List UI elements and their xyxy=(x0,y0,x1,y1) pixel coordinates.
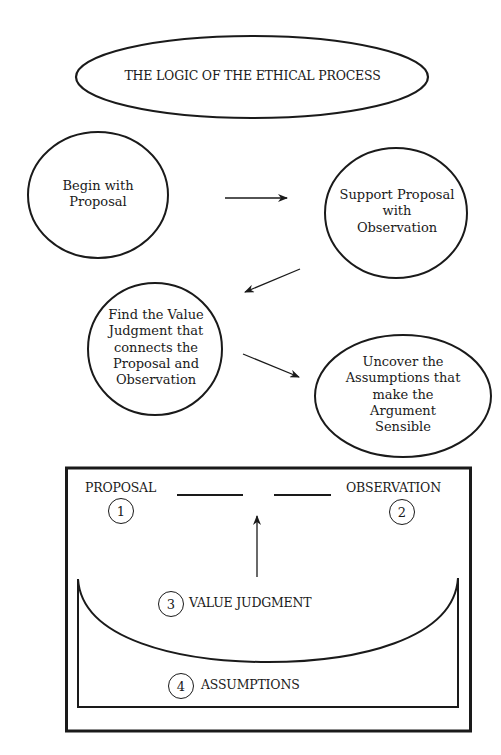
assumptions-number-badge: 4 xyxy=(168,673,194,699)
diagram-title: THE LOGIC OF THE ETHICAL PROCESS xyxy=(80,68,425,84)
arrow-value-to-assumptions xyxy=(243,354,299,377)
node-assumptions-label: Uncover the Assumptions that make the Ar… xyxy=(325,354,481,435)
observation-number-badge: 2 xyxy=(389,499,415,525)
proposal-number-badge: 1 xyxy=(108,498,134,524)
node-begin-label: Begin with Proposal xyxy=(40,178,156,211)
node-support-label: Support Proposal with Observation xyxy=(330,187,464,236)
node-value-label: Find the Value Judgment that connects th… xyxy=(92,307,220,388)
value-judgment-label: VALUE JUDGMENT xyxy=(189,595,311,611)
proposal-label: PROPOSAL xyxy=(85,480,156,496)
assumptions-label: ASSUMPTIONS xyxy=(201,677,300,693)
value-judgment-number-badge: 3 xyxy=(158,591,184,617)
value-judgment-bowl xyxy=(78,578,458,662)
observation-label: OBSERVATION xyxy=(346,480,441,496)
arrow-support-to-value xyxy=(245,269,300,292)
ethical-process-diagram: THE LOGIC OF THE ETHICAL PROCESS Begin w… xyxy=(0,0,501,755)
